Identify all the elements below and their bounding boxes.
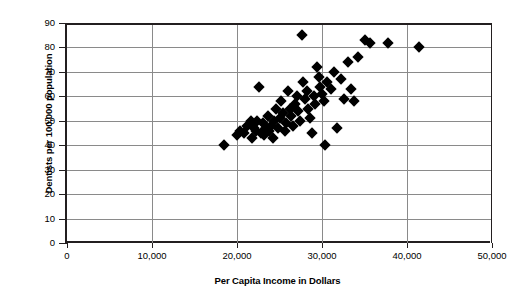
data-point: [306, 127, 317, 138]
y-axis-tick-label: 30: [21, 164, 55, 175]
y-axis-tick: [59, 121, 67, 122]
data-point: [253, 81, 264, 92]
data-point: [342, 56, 353, 67]
y-axis-tick-label: 0: [21, 237, 55, 248]
x-axis-tick-label: 10,000: [112, 250, 192, 261]
y-axis-tick-label: 90: [21, 17, 55, 28]
x-axis-tick: [492, 243, 493, 248]
y-axis-tick-label: 20: [21, 188, 55, 199]
y-axis-tick-label: 40: [21, 139, 55, 150]
data-point: [311, 61, 322, 72]
y-axis-tick-label: 60: [21, 90, 55, 101]
x-axis-tick-label: 30,000: [282, 250, 362, 261]
x-axis-tick: [407, 243, 408, 248]
data-point: [219, 140, 230, 151]
x-axis-title: Per Capita Income in Dollars: [65, 275, 490, 286]
data-point: [383, 37, 394, 48]
y-axis-tick: [59, 243, 67, 244]
y-axis-tick: [59, 96, 67, 97]
data-point: [413, 42, 424, 53]
data-point: [332, 122, 343, 133]
x-axis-tick: [322, 243, 323, 248]
x-axis-tick: [237, 243, 238, 248]
data-point: [345, 83, 356, 94]
y-axis-tick: [59, 47, 67, 48]
data-point: [320, 140, 331, 151]
plot-area: 0102030405060708090010,00020,00030,00040…: [65, 23, 490, 243]
y-axis-tick: [59, 72, 67, 73]
data-point: [338, 93, 349, 104]
y-axis-tick-label: 80: [21, 41, 55, 52]
x-axis-tick-label: 20,000: [197, 250, 277, 261]
x-axis-tick-label: 50,000: [452, 250, 515, 261]
y-axis-tick-label: 50: [21, 115, 55, 126]
data-points-layer: [67, 23, 492, 243]
scatter-chart: Dentists per 100,000 population 01020304…: [0, 0, 515, 296]
x-axis-tick-label: 40,000: [367, 250, 447, 261]
x-axis-tick: [67, 243, 68, 248]
data-point: [349, 96, 360, 107]
x-axis-tick-label: 0: [27, 250, 107, 261]
y-axis-tick: [59, 170, 67, 171]
y-axis-tick: [59, 145, 67, 146]
y-axis-tick: [59, 23, 67, 24]
data-point: [296, 30, 307, 41]
data-point: [335, 74, 346, 85]
x-axis-tick: [152, 243, 153, 248]
data-point: [304, 113, 315, 124]
y-axis-tick: [59, 194, 67, 195]
y-axis-tick-label: 70: [21, 66, 55, 77]
y-axis-tick: [59, 219, 67, 220]
y-axis-tick-label: 10: [21, 213, 55, 224]
